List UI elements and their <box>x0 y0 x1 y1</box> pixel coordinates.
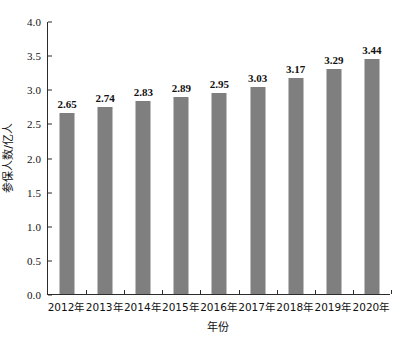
bar <box>98 107 113 294</box>
bar <box>212 93 227 294</box>
x-axis-tick-label: 2013年 <box>86 299 123 314</box>
bar <box>136 101 151 294</box>
bar <box>60 113 75 294</box>
y-axis-tick-label: 1.5 <box>1 187 41 199</box>
bar <box>174 97 189 294</box>
x-axis-tick-label: 2014年 <box>124 299 161 314</box>
x-axis-tick-mark <box>239 290 240 294</box>
x-axis-tick-mark <box>124 290 125 294</box>
bar-value-label: 3.03 <box>248 72 267 84</box>
x-axis-tick-mark <box>315 290 316 294</box>
bar-group: 2.89 <box>162 22 200 294</box>
bar <box>326 69 341 294</box>
x-axis-tick-mark <box>200 290 201 294</box>
y-axis-tick-label: 3.5 <box>1 50 41 62</box>
bar <box>250 87 265 294</box>
plot-area: 参保人数/亿人 0.00.51.01.52.02.53.03.54.0 2.65… <box>47 22 390 295</box>
bars-layer: 2.652.742.832.892.953.033.173.293.44 <box>48 22 390 294</box>
x-axis-tick-label: 2019年 <box>314 299 351 314</box>
bar-value-label: 2.95 <box>210 78 229 90</box>
bar-value-label: 3.44 <box>362 44 381 56</box>
x-axis-title: 年份 <box>207 318 229 334</box>
x-axis-tick-label: 2012年 <box>48 299 85 314</box>
y-axis-tick-label: 0.5 <box>1 255 41 267</box>
y-axis-tick-label: 2.0 <box>1 153 41 165</box>
x-axis-tick-mark <box>353 290 354 294</box>
y-axis-tick-label: 2.5 <box>1 118 41 130</box>
bar-group: 3.44 <box>353 22 391 294</box>
x-axis-tick-mark <box>162 290 163 294</box>
x-axis-tick-label: 2017年 <box>238 299 275 314</box>
x-axis-tick-mark <box>277 290 278 294</box>
bar-group: 2.74 <box>86 22 124 294</box>
bar-value-label: 2.89 <box>172 82 191 94</box>
y-axis-tick-label: 0.0 <box>1 289 41 301</box>
bar-value-label: 3.29 <box>324 54 343 66</box>
x-axis-tick-mark <box>391 290 392 294</box>
x-axis-tick-mark <box>86 290 87 294</box>
bar-value-label: 2.74 <box>96 92 115 104</box>
bar-group: 2.95 <box>200 22 238 294</box>
y-axis-tick-mark <box>48 295 52 296</box>
bar-value-label: 2.83 <box>134 86 153 98</box>
y-axis-tick-label: 1.0 <box>1 221 41 233</box>
y-axis-tick-label: 4.0 <box>1 16 41 28</box>
y-axis-tick-label: 3.0 <box>1 84 41 96</box>
bar-group: 2.65 <box>48 22 86 294</box>
bar-chart-figure: 参保人数/亿人 0.00.51.01.52.02.53.03.54.0 2.65… <box>0 0 403 341</box>
bar-value-label: 2.65 <box>57 98 76 110</box>
x-axis-tick-label: 2016年 <box>200 299 237 314</box>
bar-group: 3.03 <box>239 22 277 294</box>
x-axis-tick-label: 2018年 <box>276 299 313 314</box>
x-axis-tick-label: 2015年 <box>162 299 199 314</box>
bar-value-label: 3.17 <box>286 63 305 75</box>
bar <box>364 59 379 294</box>
bar-group: 3.29 <box>315 22 353 294</box>
bar-group: 3.17 <box>277 22 315 294</box>
bar <box>288 78 303 294</box>
x-axis-tick-label: 2020年 <box>353 299 390 314</box>
bar-group: 2.83 <box>124 22 162 294</box>
